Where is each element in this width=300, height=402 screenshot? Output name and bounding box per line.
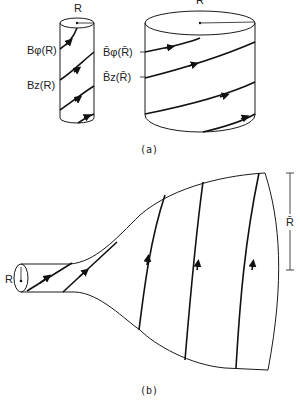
flux-tube-diagram: R Bφ(R) Bz(R) R̄ B̄φ(R̄) B̄z(R̄) (a) (0, 0, 300, 402)
small-radius-label: R (74, 2, 82, 14)
expanding-flux-tube (14, 173, 296, 370)
large-radius-label: R̄ (196, 0, 204, 6)
b-bar-z-label: B̄z(R̄) (103, 71, 131, 83)
inlet-radius-label: R (5, 273, 13, 285)
b-phi-label: Bφ(R) (27, 44, 57, 56)
panel-a-caption: (a) (140, 144, 158, 155)
b-z-label: Bz(R) (27, 79, 55, 91)
large-cylinder (140, 11, 255, 132)
small-cylinder (60, 18, 94, 123)
panel-b-caption: (b) (140, 385, 158, 396)
outlet-radius-label: R̄ (286, 216, 294, 228)
b-bar-phi-label: B̄φ(R̄) (103, 46, 133, 58)
